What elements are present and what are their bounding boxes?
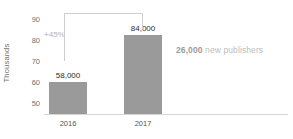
y-tick-80: 80 [20, 37, 40, 45]
y-tick-50: 50 [20, 100, 40, 108]
x-axis-label-2016: 2016 [38, 119, 98, 128]
plot-area: 58,000 84,000 [44, 6, 287, 114]
bar-value-label-2017: 84,000 [113, 24, 173, 33]
bar-value-label-2016: 58,000 [38, 71, 98, 80]
change-bracket-right-tick [142, 13, 143, 29]
percent-change-annotation: +45% [44, 30, 65, 39]
y-axis-ticks: 90 80 70 60 50 [20, 0, 40, 139]
x-axis-label-2017: 2017 [113, 119, 173, 128]
callout-text: new publishers [205, 45, 263, 55]
y-tick-90: 90 [20, 16, 40, 24]
callout-value: 26,000 [176, 45, 203, 55]
y-tick-70: 70 [20, 58, 40, 66]
x-axis-baseline [44, 114, 288, 115]
callout-annotation: 26,000 new publishers [176, 45, 263, 55]
y-tick-60: 60 [20, 79, 40, 87]
bar-2016[interactable] [49, 82, 87, 114]
y-axis-title-label: Thousands [2, 28, 11, 98]
change-bracket [64, 13, 143, 14]
bar-2017[interactable] [124, 35, 162, 114]
y-axis-title: Thousands [2, 0, 11, 28]
bar-chart: Thousands 90 80 70 60 50 58,000 84,000 2… [0, 0, 293, 139]
